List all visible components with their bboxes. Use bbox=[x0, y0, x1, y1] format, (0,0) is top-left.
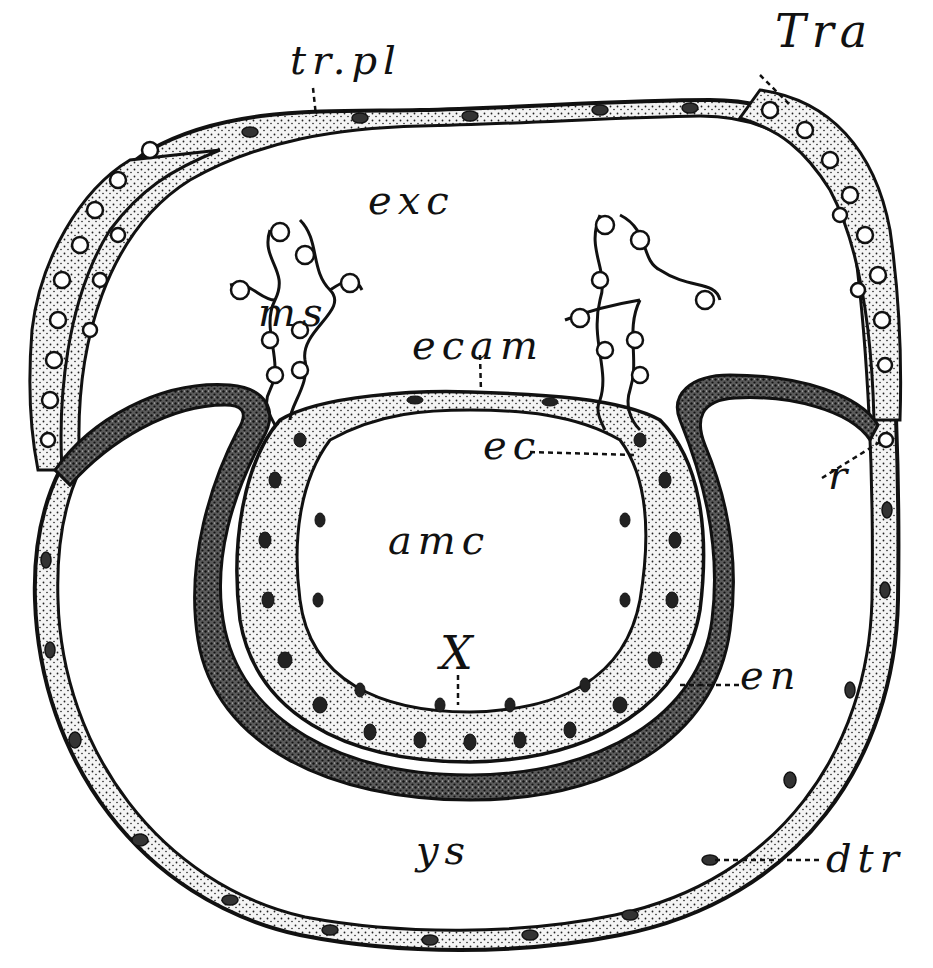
label-r: r bbox=[828, 455, 853, 495]
label-trophoblast-thickening: Tra bbox=[775, 8, 873, 54]
diagram-canvas bbox=[0, 0, 933, 968]
label-distal-trophoblast: dtr bbox=[826, 838, 905, 878]
ectoderm-amnion bbox=[237, 392, 704, 762]
label-ectodermal-amnion: ecam bbox=[412, 325, 544, 365]
label-endoderm: en bbox=[740, 655, 801, 695]
label-mesoderm: ms bbox=[258, 292, 328, 332]
label-x: X bbox=[440, 630, 479, 676]
label-amniotic-cavity: amc bbox=[388, 520, 490, 560]
label-trophoblast-plate: tr.pl bbox=[290, 40, 402, 80]
label-exocoelom: exc bbox=[368, 180, 455, 220]
embryo-section-figure: tr.pl Tra exc ms ecam ec amc X r en ys d… bbox=[0, 0, 933, 968]
label-yolk-sac: ys bbox=[416, 830, 471, 870]
label-ectoderm: ec bbox=[483, 425, 541, 465]
